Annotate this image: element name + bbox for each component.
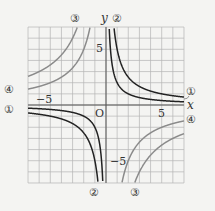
y-tick-neg5: −5 bbox=[110, 155, 126, 168]
curve-2-label-top: ② bbox=[112, 12, 122, 25]
x-tick-neg5: −5 bbox=[36, 93, 52, 106]
x-tick-5: 5 bbox=[158, 107, 165, 120]
hyperbola-graph: y x O 5 5 −5 −5 ③ ② ④ ① ① ④ ② ③ bbox=[0, 0, 215, 211]
curve-4-label-right: ④ bbox=[186, 113, 196, 126]
curve-3-label-bottom: ③ bbox=[130, 186, 140, 199]
curve-3-label-top: ③ bbox=[70, 12, 80, 25]
curve-1-label-left: ① bbox=[4, 103, 14, 116]
y-axis-label: y bbox=[100, 11, 108, 25]
curve-2-label-bottom: ② bbox=[89, 186, 99, 199]
curve-1-label-right: ① bbox=[186, 85, 196, 98]
curve-4-label-left: ④ bbox=[4, 83, 14, 96]
y-tick-5: 5 bbox=[96, 42, 103, 55]
origin-label: O bbox=[95, 107, 104, 120]
x-axis-label: x bbox=[187, 98, 194, 112]
